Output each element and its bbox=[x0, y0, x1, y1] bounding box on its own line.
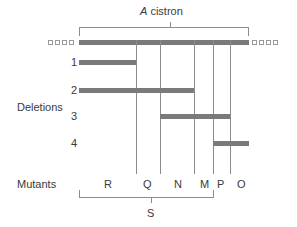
boundary-line-p-o bbox=[230, 40, 231, 174]
flank-square-icon bbox=[48, 40, 53, 45]
deletion-1-bar bbox=[79, 60, 136, 65]
mutant-q: Q bbox=[143, 178, 152, 190]
flank-square-icon bbox=[55, 40, 60, 45]
deletion-4-bar bbox=[213, 141, 249, 146]
s-bracket bbox=[79, 197, 214, 198]
cistron-title: A cistron bbox=[140, 5, 183, 17]
deletion-2-label: 2 bbox=[71, 84, 77, 96]
group-s-label: S bbox=[147, 207, 154, 219]
s-bracket-right bbox=[213, 190, 214, 198]
flank-square-icon bbox=[69, 40, 74, 45]
boundary-line-m-p bbox=[213, 40, 214, 174]
cistron-prefix: A bbox=[140, 5, 147, 17]
deletion-3-bar bbox=[160, 114, 230, 119]
cistron-bracket-left bbox=[79, 27, 80, 36]
flank-square-icon bbox=[266, 40, 271, 45]
deletion-3-label: 3 bbox=[71, 110, 77, 122]
mutant-n: N bbox=[174, 178, 182, 190]
cistron-bracket bbox=[79, 27, 249, 28]
boundary-line-n-m bbox=[194, 40, 195, 174]
flank-square-icon bbox=[273, 40, 278, 45]
mutants-title: Mutants bbox=[17, 178, 56, 190]
deletion-4-label: 4 bbox=[71, 137, 77, 149]
s-bracket-left bbox=[79, 190, 80, 198]
mutant-r: R bbox=[104, 178, 112, 190]
flank-square-icon bbox=[252, 40, 257, 45]
deletions-title: Deletions bbox=[17, 101, 63, 113]
boundary-line-r-q bbox=[136, 40, 137, 174]
mutant-p: P bbox=[217, 178, 224, 190]
mutant-o: O bbox=[237, 178, 246, 190]
flank-square-icon bbox=[259, 40, 264, 45]
deletion-2-bar bbox=[79, 88, 194, 93]
s-bracket-tick bbox=[151, 197, 152, 203]
cistron-label: cistron bbox=[150, 5, 182, 17]
boundary-line-q-n bbox=[160, 40, 161, 174]
cistron-bracket-tick bbox=[170, 22, 171, 27]
cistron-bracket-right bbox=[248, 27, 249, 36]
chromosome-bar bbox=[79, 40, 249, 45]
deletion-1-label: 1 bbox=[71, 56, 77, 68]
flank-square-icon bbox=[62, 40, 67, 45]
mutant-m: M bbox=[200, 178, 209, 190]
